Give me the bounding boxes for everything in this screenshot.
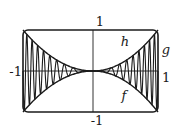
y-axis-tick-label-top: 1 (96, 14, 104, 29)
curves-layer (23, 30, 158, 112)
lower-envelope-curve-f (23, 71, 158, 112)
y-axis-tick-label-bottom: -1 (91, 113, 104, 128)
curve-label-g: g (162, 42, 170, 57)
squeeze-theorem-figure: 1 -1 -1 1 h g f (0, 0, 176, 135)
curve-label-f: f (121, 88, 129, 103)
x-axis-tick-label-right: 1 (162, 70, 170, 85)
curve-label-h: h (121, 34, 129, 49)
oscillating-curve-g (23, 34, 158, 110)
plot-canvas: 1 -1 -1 1 h g f (0, 0, 176, 135)
x-axis-tick-label-left: -1 (9, 64, 22, 79)
